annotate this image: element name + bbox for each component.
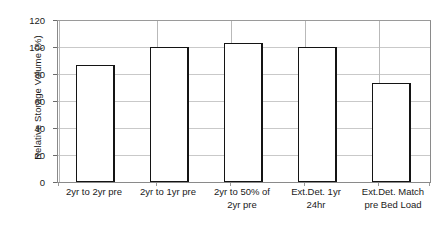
y-tick-label-0: 0 [5, 177, 45, 188]
y-tick-label-120: 120 [5, 15, 45, 26]
y-tick-label-20: 20 [5, 150, 45, 161]
plot-area [57, 20, 431, 183]
bar-1 [150, 47, 189, 183]
bar-2 [224, 43, 263, 182]
y-axis-tick-labels: 120 100 80 60 40 20 0 [0, 0, 53, 227]
x-axis-tick-labels: 2yr to 2yr pre 2yr to 1yr pre 2yr to 50%… [57, 186, 431, 226]
y-tick-label-60: 60 [5, 96, 45, 107]
vgridline-0 [59, 21, 60, 182]
y-tick-label-100: 100 [5, 42, 45, 53]
x-label-4: Ext.Det. Match pre Bed Load [345, 186, 441, 211]
bar-3 [298, 47, 337, 183]
bar-0 [76, 65, 115, 182]
bar-chart-figure: Relative Storage Volume (%) 120 100 80 6… [0, 0, 448, 227]
y-tick-label-40: 40 [5, 123, 45, 134]
y-tick-label-80: 80 [5, 69, 45, 80]
bar-4 [372, 83, 411, 182]
